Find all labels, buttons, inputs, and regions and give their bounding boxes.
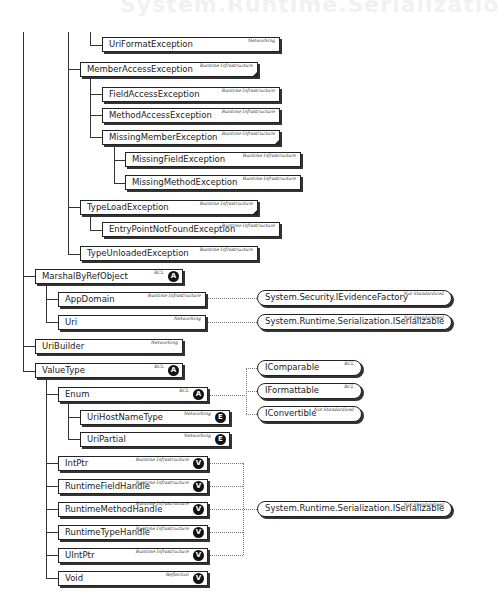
tree-line bbox=[90, 115, 102, 116]
library-tag: Runtime Infrastructure bbox=[136, 457, 189, 462]
abstract-corner-icon bbox=[274, 139, 280, 145]
library-tag: Runtime Infrastructure bbox=[200, 201, 253, 206]
interface-link bbox=[207, 298, 257, 299]
interface-iconvertible[interactable]: IConvertible Not Standardized bbox=[257, 406, 362, 422]
abstract-badge-icon: A bbox=[168, 271, 179, 282]
abstract-badge-icon: A bbox=[168, 365, 179, 376]
class-member-access-exception[interactable]: MemberAccessException Runtime Infrastruc… bbox=[80, 62, 258, 77]
class-name: FieldAccessException bbox=[109, 89, 200, 99]
tree-line bbox=[68, 417, 80, 418]
tree-line bbox=[46, 394, 58, 395]
library-tag: Networking bbox=[184, 411, 211, 416]
tree-line-marshal bbox=[46, 284, 47, 323]
interface-link bbox=[210, 532, 243, 533]
interface-link bbox=[246, 391, 257, 392]
library-tag: Runtime Infrastructure bbox=[136, 549, 189, 554]
class-type-load-exception[interactable]: TypeLoadException Runtime Infrastructure bbox=[80, 200, 258, 215]
interface-iserializable-uri[interactable]: System.Runtime.Serialization.ISerializab… bbox=[257, 314, 452, 330]
library-tag: Networking bbox=[174, 316, 201, 321]
interface-iformattable[interactable]: IFormattable BCL bbox=[257, 383, 362, 399]
class-name: UriFormatException bbox=[109, 39, 193, 49]
tree-line bbox=[46, 463, 58, 464]
abstract-corner-icon bbox=[252, 71, 258, 77]
class-type-unloaded-exception[interactable]: TypeUnloadedException Runtime Infrastruc… bbox=[80, 246, 258, 261]
class-name: Void bbox=[65, 573, 83, 583]
interface-link bbox=[210, 463, 243, 464]
library-tag: Runtime Infrastructure bbox=[222, 223, 275, 228]
class-uri[interactable]: Uri Networking bbox=[58, 315, 206, 330]
tree-line bbox=[46, 509, 58, 510]
class-enum[interactable]: Enum BCL A bbox=[58, 387, 208, 402]
interface-link bbox=[210, 509, 257, 510]
library-tag: BCL bbox=[154, 270, 164, 275]
enum-badge-icon: E bbox=[215, 434, 226, 445]
tree-line-typeload bbox=[90, 215, 91, 230]
tree-line bbox=[46, 299, 58, 300]
class-name: IntPtr bbox=[65, 458, 88, 468]
class-name: UriPartial bbox=[87, 434, 126, 444]
interface-icomparable[interactable]: IComparable BCL bbox=[257, 360, 362, 376]
class-void[interactable]: Void Reflection V bbox=[58, 571, 208, 586]
class-marshal-by-ref-object[interactable]: MarshalByRefObject BCL A bbox=[35, 269, 183, 284]
class-uri-format-exception[interactable]: UriFormatException Networking bbox=[102, 37, 280, 52]
library-tag: Runtime Infrastructure bbox=[222, 131, 275, 136]
class-name: MethodAccessException bbox=[109, 110, 212, 120]
tree-line-missingmember bbox=[114, 145, 115, 183]
library-tag: Networking bbox=[248, 38, 275, 43]
class-entry-point-not-found-exception[interactable]: EntryPointNotFoundException Runtime Infr… bbox=[102, 222, 280, 237]
interface-name: IComparable bbox=[265, 362, 319, 372]
class-method-access-exception[interactable]: MethodAccessException Runtime Infrastruc… bbox=[102, 108, 280, 123]
interface-name: IConvertible bbox=[265, 408, 316, 418]
class-int-ptr[interactable]: IntPtr Runtime Infrastructure V bbox=[58, 456, 208, 471]
library-tag: Runtime Infrastructure bbox=[136, 526, 189, 531]
tree-line-exceptions bbox=[68, 32, 69, 254]
library-tag: Runtime Infrastructure bbox=[136, 480, 189, 485]
library-tag: Not Standardized bbox=[404, 315, 444, 320]
tree-line bbox=[68, 207, 80, 208]
interface-ievidence-factory[interactable]: System.Security.IEvidenceFactory Not Sta… bbox=[257, 290, 452, 306]
class-name: MarshalByRefObject bbox=[42, 271, 128, 281]
library-tag: Runtime Infrastructure bbox=[148, 293, 201, 298]
class-missing-member-exception[interactable]: MissingMemberException Runtime Infrastru… bbox=[102, 130, 280, 145]
tree-line bbox=[68, 254, 80, 255]
class-missing-method-exception[interactable]: MissingMethodException Runtime Infrastru… bbox=[125, 175, 301, 190]
class-field-access-exception[interactable]: FieldAccessException Runtime Infrastruct… bbox=[102, 87, 280, 102]
class-name: TypeLoadException bbox=[87, 202, 169, 212]
class-runtime-type-handle[interactable]: RuntimeTypeHandle Runtime Infrastructure… bbox=[58, 525, 208, 540]
tree-line-enum bbox=[68, 402, 69, 440]
class-uri-partial[interactable]: UriPartial Networking E bbox=[80, 432, 230, 447]
tree-line-valuetype bbox=[46, 378, 47, 579]
value-type-badge-icon: V bbox=[193, 573, 204, 584]
class-uint-ptr[interactable]: UIntPtr Runtime Infrastructure V bbox=[58, 548, 208, 563]
tree-line bbox=[46, 486, 58, 487]
interface-name: IFormattable bbox=[265, 385, 319, 395]
class-uri-host-name-type[interactable]: UriHostNameType Networking E bbox=[80, 410, 230, 425]
class-name: UriBuilder bbox=[42, 341, 84, 351]
tree-line-root bbox=[23, 32, 24, 372]
class-uri-builder[interactable]: UriBuilder Networking bbox=[35, 339, 183, 354]
library-tag: Not Standardized bbox=[404, 502, 444, 507]
library-tag: Runtime Infrastructure bbox=[243, 176, 296, 181]
interface-link bbox=[210, 395, 247, 396]
interface-link bbox=[210, 555, 243, 556]
library-tag: Not Standardized bbox=[404, 291, 444, 296]
abstract-corner-icon bbox=[252, 209, 258, 215]
class-name: MemberAccessException bbox=[87, 64, 193, 74]
library-tag: Runtime Infrastructure bbox=[222, 109, 275, 114]
class-name: ValueType bbox=[42, 365, 85, 375]
tree-line bbox=[114, 183, 125, 184]
interface-iserializable-handles[interactable]: System.Runtime.Serialization.ISerializab… bbox=[257, 501, 452, 517]
class-missing-field-exception[interactable]: MissingFieldException Runtime Infrastruc… bbox=[125, 152, 301, 167]
tree-line bbox=[114, 160, 125, 161]
tree-line-uriformat bbox=[90, 32, 91, 45]
class-runtime-method-handle[interactable]: RuntimeMethodHandle Runtime Infrastructu… bbox=[58, 502, 208, 517]
tree-line bbox=[90, 230, 102, 231]
class-runtime-field-handle[interactable]: RuntimeFieldHandle Runtime Infrastructur… bbox=[58, 479, 208, 494]
tree-line bbox=[46, 532, 58, 533]
class-value-type[interactable]: ValueType BCL A bbox=[35, 363, 183, 378]
library-tag: Not Standardized bbox=[314, 407, 354, 412]
library-tag: BCL bbox=[154, 364, 164, 369]
tree-line bbox=[46, 578, 58, 579]
class-app-domain[interactable]: AppDomain Runtime Infrastructure bbox=[58, 292, 206, 307]
interface-link bbox=[246, 414, 257, 415]
